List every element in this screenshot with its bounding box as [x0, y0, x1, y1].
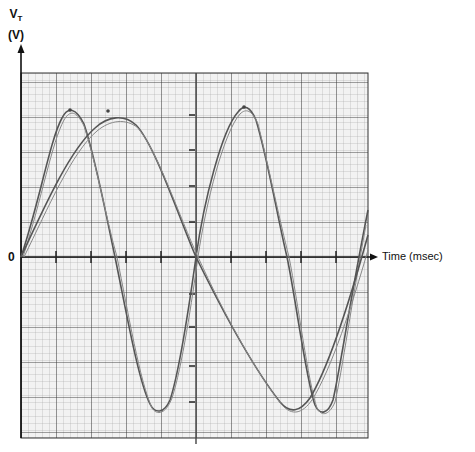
x-axis-arrow-icon: [370, 254, 378, 261]
chart-canvas: [0, 0, 475, 452]
y-axis-arrow-icon: [18, 44, 25, 53]
